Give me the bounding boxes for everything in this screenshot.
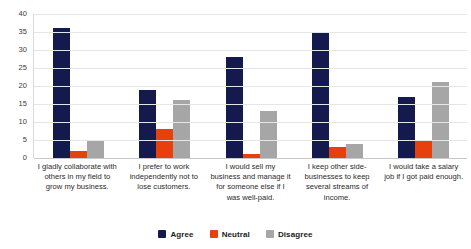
category-label-2: I prefer to work independently not to lo… <box>121 160 208 216</box>
bar-neutral-5[interactable] <box>415 140 432 158</box>
legend-swatch-agree-icon <box>158 230 166 238</box>
category-label-5: I would take a salary job if I got paid … <box>380 160 467 216</box>
category-label-1: I gladly collaborate with others in my f… <box>34 160 121 216</box>
bar-disagree-5[interactable] <box>432 82 449 158</box>
bar-agree-1[interactable] <box>53 28 70 158</box>
legend-item-neutral[interactable]: Neutral <box>210 230 250 239</box>
axis-baseline <box>34 158 467 159</box>
bar-neutral-1[interactable] <box>70 151 87 158</box>
y-axis-tick-15: 15 <box>1 100 27 108</box>
bar-disagree-2[interactable] <box>173 100 190 158</box>
y-axis-tick-25: 25 <box>1 64 27 72</box>
category-label-3: I would sell my business and manage it f… <box>207 160 294 216</box>
y-axis-tick-5: 5 <box>1 136 27 144</box>
gridline-25 <box>34 68 467 69</box>
gridline-30 <box>34 50 467 51</box>
gridline-20 <box>34 86 467 87</box>
category-label-4: I keep other side-businesses to keep sev… <box>294 160 381 216</box>
legend-swatch-neutral-icon <box>210 230 218 238</box>
bar-neutral-2[interactable] <box>156 129 173 158</box>
bar-disagree-3[interactable] <box>260 111 277 158</box>
gridline-5 <box>34 140 467 141</box>
y-axis-tick-30: 30 <box>1 46 27 54</box>
legend-item-disagree[interactable]: Disagree <box>266 230 313 239</box>
bar-agree-2[interactable] <box>139 90 156 158</box>
chart-legend: AgreeNeutralDisagree <box>0 225 471 243</box>
plot-area <box>33 14 467 158</box>
bar-disagree-4[interactable] <box>346 144 363 158</box>
y-axis-tick-20: 20 <box>1 82 27 90</box>
gridline-40 <box>34 14 467 15</box>
y-axis-tick-10: 10 <box>1 118 27 126</box>
gridline-15 <box>34 104 467 105</box>
y-axis-tick-0: 0 <box>1 154 27 162</box>
category-labels: I gladly collaborate with others in my f… <box>34 160 467 216</box>
bar-neutral-4[interactable] <box>329 147 346 158</box>
plot-wrapper: 0510152025303540 <box>0 0 471 165</box>
y-axis: 0510152025303540 <box>0 0 30 165</box>
legend-item-agree[interactable]: Agree <box>158 230 193 239</box>
y-axis-tick-35: 35 <box>1 28 27 36</box>
gridline-10 <box>34 122 467 123</box>
legend-swatch-disagree-icon <box>266 230 274 238</box>
bar-agree-5[interactable] <box>398 97 415 158</box>
gridline-35 <box>34 32 467 33</box>
legend-label-neutral: Neutral <box>222 230 250 239</box>
bar-disagree-1[interactable] <box>87 140 104 158</box>
legend-label-disagree: Disagree <box>278 230 313 239</box>
bar-chart: 0510152025303540 I gladly collaborate wi… <box>0 0 471 249</box>
bar-agree-3[interactable] <box>226 57 243 158</box>
y-axis-tick-40: 40 <box>1 10 27 18</box>
legend-label-agree: Agree <box>170 230 193 239</box>
